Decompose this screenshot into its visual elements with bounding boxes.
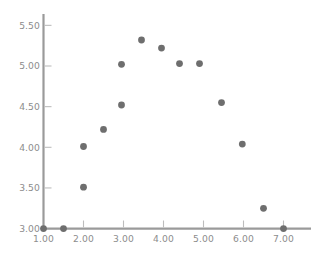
x-tick-label: 5.00 — [193, 233, 214, 244]
data-point — [118, 61, 125, 68]
data-point — [118, 102, 125, 109]
x-tick-label: 2.00 — [73, 233, 94, 244]
x-tick-label: 3.00 — [113, 233, 134, 244]
y-tick-label: 4.50 — [19, 101, 40, 112]
plot-area: 3.003.504.004.505.005.50 1.002.003.004.0… — [0, 0, 328, 257]
y-tick-label: 5.50 — [19, 20, 40, 31]
x-tick-group: 1.002.003.004.005.006.007.00 — [33, 221, 294, 244]
data-point — [196, 60, 203, 67]
data-point — [280, 225, 287, 232]
data-point — [218, 99, 225, 106]
data-point — [260, 205, 267, 212]
y-tick-label: 3.50 — [19, 182, 40, 193]
y-tick-group: 3.003.504.004.505.005.50 — [19, 20, 51, 234]
x-tick-label: 7.00 — [273, 233, 294, 244]
y-axis: 3.003.504.004.505.005.50 — [19, 14, 51, 234]
y-tick-label: 4.00 — [19, 142, 40, 153]
data-point — [239, 141, 246, 148]
data-point — [138, 37, 145, 44]
x-tick-label: 4.00 — [153, 233, 174, 244]
data-point — [80, 143, 87, 150]
x-axis: 1.002.003.004.005.006.007.00 — [33, 221, 311, 244]
x-tick-label: 6.00 — [233, 233, 254, 244]
x-tick-label: 1.00 — [33, 233, 54, 244]
data-point-group — [40, 37, 287, 232]
y-tick-label: 5.00 — [19, 60, 40, 71]
data-point — [176, 60, 183, 67]
data-point — [60, 225, 67, 232]
data-point — [158, 45, 165, 52]
data-point — [80, 184, 87, 191]
data-point — [40, 225, 47, 232]
scatter-chart: 3.003.504.004.505.005.50 1.002.003.004.0… — [0, 0, 328, 257]
data-point — [100, 126, 107, 133]
